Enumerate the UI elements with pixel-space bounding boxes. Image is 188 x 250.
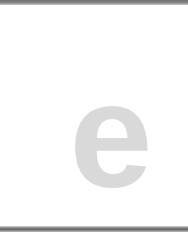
letter-e-logo-icon: e (56, 65, 166, 205)
logo-card: e (0, 5, 188, 226)
bottom-border (0, 226, 188, 232)
